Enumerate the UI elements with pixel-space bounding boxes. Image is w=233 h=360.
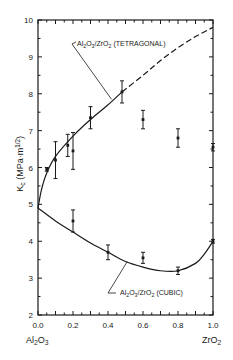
axis-labels: 0.00.20.40.60.81.02345678910Al2O3ZrO2Kc … bbox=[14, 16, 222, 346]
cubic-point bbox=[211, 239, 215, 243]
tetragonal-point bbox=[54, 142, 58, 179]
tetragonal-leader-tick bbox=[72, 42, 76, 44]
x-end-label-right: ZrO2 bbox=[202, 335, 222, 346]
x-tick-label: 0.2 bbox=[67, 321, 79, 330]
data-marker bbox=[72, 220, 75, 223]
tetragonal-curve-solid bbox=[38, 92, 122, 208]
data-marker bbox=[45, 168, 48, 171]
x-tick-label: 0.4 bbox=[102, 321, 114, 330]
data-marker bbox=[66, 144, 69, 147]
data-marker bbox=[212, 146, 215, 149]
cubic-point bbox=[141, 252, 145, 263]
tetragonal-point bbox=[66, 134, 70, 156]
data-marker bbox=[107, 251, 110, 254]
cubic-point bbox=[71, 210, 75, 232]
data-marker bbox=[212, 240, 215, 243]
toughness-chart: Al2O3/ZrO2 (TETRAGONAL)Al2O3/ZrO2 (CUBIC… bbox=[0, 0, 233, 360]
tetragonal-leader-line bbox=[72, 44, 112, 99]
tetragonal-label: Al2O3/ZrO2 (TETRAGONAL) bbox=[77, 40, 166, 49]
tetragonal-point bbox=[141, 110, 145, 128]
data-marker bbox=[54, 159, 57, 162]
y-tick-label: 8 bbox=[29, 90, 34, 99]
annotations: Al2O3/ZrO2 (TETRAGONAL)Al2O3/ZrO2 (CUBIC… bbox=[72, 40, 183, 298]
cubic-curve bbox=[38, 208, 213, 271]
y-tick-label: 3 bbox=[29, 274, 34, 283]
data-marker bbox=[142, 256, 145, 259]
data-marker bbox=[177, 269, 180, 272]
tetragonal-curve-dashed bbox=[122, 27, 213, 92]
data-marker bbox=[121, 91, 124, 94]
x-end-label-left: Al2O3 bbox=[26, 335, 49, 346]
data-marker bbox=[89, 116, 92, 119]
y-tick-label: 7 bbox=[29, 127, 34, 136]
tetragonal-point bbox=[211, 144, 215, 151]
data-points bbox=[45, 81, 215, 275]
y-axis-label: Kc (MPa·m1/2) bbox=[14, 136, 26, 192]
tetragonal-point bbox=[176, 129, 180, 147]
y-tick-label: 6 bbox=[29, 164, 34, 173]
y-tick-label: 9 bbox=[29, 53, 34, 62]
y-tick-label: 10 bbox=[24, 16, 33, 25]
x-tick-label: 0.0 bbox=[32, 321, 44, 330]
cubic-point bbox=[176, 267, 180, 274]
fit-curves bbox=[38, 27, 213, 271]
y-tick-label: 5 bbox=[29, 200, 34, 209]
plot-frame bbox=[38, 20, 213, 315]
y-tick-label: 4 bbox=[29, 237, 34, 246]
data-marker bbox=[72, 150, 75, 153]
data-marker bbox=[142, 118, 145, 121]
tetragonal-point bbox=[89, 107, 93, 129]
tetragonal-point bbox=[120, 81, 124, 103]
cubic-label: Al2O3/ZrO2 (CUBIC) bbox=[120, 289, 183, 298]
y-tick-label: 2 bbox=[29, 311, 34, 320]
x-tick-label: 0.8 bbox=[172, 321, 184, 330]
axis-ticks bbox=[38, 20, 213, 315]
plot-border bbox=[38, 20, 213, 315]
data-marker bbox=[177, 137, 180, 140]
cubic-point bbox=[106, 245, 110, 260]
x-tick-label: 0.6 bbox=[137, 321, 149, 330]
x-tick-label: 1.0 bbox=[207, 321, 219, 330]
